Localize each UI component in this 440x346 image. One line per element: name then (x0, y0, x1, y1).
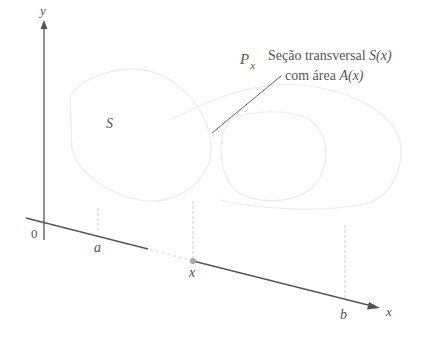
x-axis-label: x (385, 304, 392, 319)
leader-line (212, 76, 281, 133)
cross-section-caption-line2: com área A(x) (285, 68, 364, 84)
plane-label: Px (239, 51, 255, 71)
x-axis (26, 218, 380, 310)
solid-cross-section-diagram: y x 0 a x b S Px Seção transversal S(x) … (0, 0, 440, 346)
origin-label: 0 (31, 226, 38, 241)
y-axis (41, 20, 48, 240)
x-point-marker (190, 258, 196, 264)
a-label: a (94, 240, 101, 255)
b-label: b (340, 307, 347, 322)
solid-outline (70, 69, 401, 209)
y-axis-label: y (38, 3, 46, 18)
cross-section-caption-line1: Seção transversal S(x) (268, 48, 392, 64)
solid-label: S (106, 116, 113, 131)
x-point-label: x (188, 265, 196, 280)
